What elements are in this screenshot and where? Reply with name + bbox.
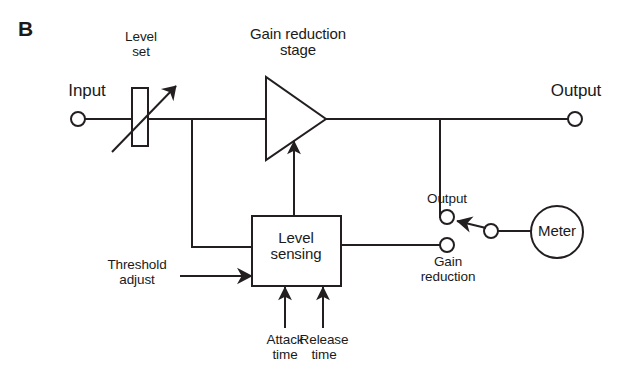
meter-output-label: Output [416,192,478,207]
threshold-adjust-label: Threshold adjust [96,258,178,287]
meter-switch-arm-arrow [457,221,486,228]
output-terminal-circle [568,112,582,126]
input-label: Input [52,82,122,100]
gain-reduction-label: Gain reduction [404,255,492,284]
gain-reduction-stage-triangle [266,77,326,160]
gain-reduction-stage-label: Gain reduction stage [218,26,378,58]
level-sensing-label: Level sensing [256,230,336,262]
meter-output-terminal-circle [440,210,454,224]
panel-letter: B [18,18,33,41]
meter-switch-pivot-circle [484,224,498,238]
release-time-label: Release time [292,333,356,362]
input-terminal-circle [71,112,85,126]
output-label: Output [540,82,612,100]
level-set-label: Level set [110,30,172,59]
figure-panel-b: B Input Level set Gain reduction stage O… [0,0,636,386]
meter-label: Meter [527,223,587,239]
gain-reduction-terminal-circle [440,238,454,252]
